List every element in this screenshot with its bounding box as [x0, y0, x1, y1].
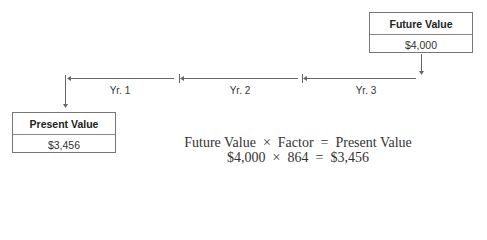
present-value-box: Present Value $3,456: [12, 112, 116, 153]
formula-line-1: Future Value × Factor = Present Value: [168, 136, 428, 150]
segment-label-yr2: Yr. 2: [210, 85, 270, 96]
formula-line-2: $4,000 × 864 = $3,456: [168, 151, 428, 165]
present-value-title: Present Value: [13, 113, 115, 135]
segment-label-yr3: Yr. 3: [336, 85, 396, 96]
present-value-amount: $3,456: [13, 135, 115, 154]
segment-label-yr1: Yr. 1: [90, 85, 150, 96]
